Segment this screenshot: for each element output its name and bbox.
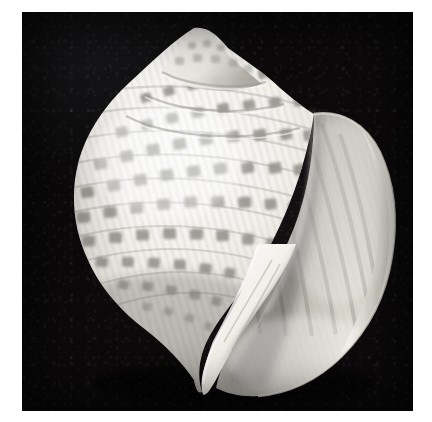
shell-silhouette	[22, 12, 413, 411]
seashell-subject	[22, 12, 413, 411]
photographic-plate	[22, 12, 413, 411]
image-canvas: Black and white photograph of a rounded …	[0, 0, 432, 422]
seashell-illustration	[22, 12, 413, 411]
shell-grain	[22, 12, 413, 411]
